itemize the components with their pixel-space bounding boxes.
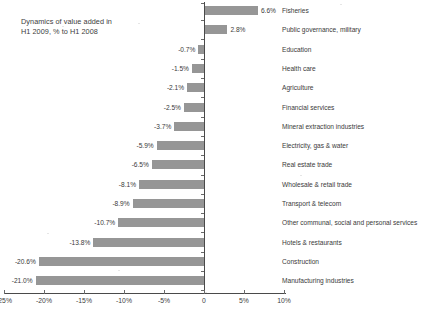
bar [39,257,204,266]
plot-area: 6.6%Fisheries2.8%Public governance, mili… [0,0,422,320]
category-axis-tick [201,78,204,79]
scan-artifact [205,292,207,293]
category-label: Agriculture [282,83,314,92]
value-axis-tick-label: -15% [64,297,104,304]
bar-value-label: -5.9% [84,141,154,150]
category-axis-tick [201,39,204,40]
bar-value-label: 6.6% [261,6,276,15]
category-label: Fisheries [282,6,309,15]
scan-artifact [118,270,120,271]
bar-value-label: -21.0% [0,276,33,285]
value-axis-tick-label: 5% [224,297,264,304]
bar [93,238,204,247]
value-axis-tick-label: -10% [104,297,144,304]
value-axis-tick [4,290,5,294]
value-axis-tick-label: -5% [144,297,184,304]
bar-value-label: -2.5% [111,103,181,112]
category-axis-tick [201,3,204,4]
bar-value-label: -1.5% [119,64,189,73]
category-label: Electricity, gas & water [282,141,348,150]
category-label: Real estate trade [282,160,332,169]
bar [192,64,204,73]
value-axis-tick [124,290,125,294]
bar [139,180,204,189]
category-label: Transport & telecom [282,199,341,208]
scan-artifact [47,233,49,234]
category-label: Manufacturing industries [282,276,354,285]
bar-value-label: -10.7% [45,218,115,227]
chart-container: Dynamics of value added in H1 2009, % to… [0,0,422,320]
bar [205,25,227,34]
scan-artifact [340,4,342,5]
bar-value-label: -8.9% [60,199,130,208]
category-axis-tick [201,20,204,21]
category-axis-tick [201,213,204,214]
category-label: Construction [282,257,319,266]
category-axis-tick [201,271,204,272]
bar-value-label: -13.8% [20,238,90,247]
bar-value-label: -0.7% [125,45,195,54]
category-label: Education [282,45,311,54]
bar [187,83,204,92]
bar [36,276,204,285]
bar [198,45,204,54]
value-axis-tick [164,290,165,294]
bar [157,141,204,150]
bar [152,160,204,169]
value-axis-tick-label: -20% [24,297,64,304]
value-axis-tick [284,290,285,294]
category-axis-tick [201,194,204,195]
bar [133,199,204,208]
bar-value-label: -8.1% [66,180,136,189]
value-axis-tick [44,290,45,294]
category-label: Mineral extraction industries [282,122,364,131]
scan-artifact [138,23,140,24]
zero-axis-line [204,2,205,294]
category-label: Wholesale & retail trade [282,180,352,189]
bar-value-label: -2.1% [114,83,184,92]
category-axis-tick [201,232,204,233]
value-axis-tick-label: 10% [264,297,304,304]
bar [118,218,204,227]
value-axis-tick-label: 0 [184,297,224,304]
scan-artifact [62,26,64,27]
category-axis-tick [201,136,204,137]
category-axis-tick [201,117,204,118]
category-label: Other communal, social and personal serv… [282,218,417,227]
category-axis-tick [201,97,204,98]
bar-value-label: -3.7% [101,122,171,131]
category-label: Hotels & restaurants [282,238,342,247]
bar [184,103,204,112]
category-axis-tick [201,155,204,156]
bar-value-label: 2.8% [230,25,245,34]
category-label: Health care [282,64,316,73]
footer-text [4,313,124,320]
bar [174,122,204,131]
value-axis-tick [84,290,85,294]
value-axis-tick-label: -25% [0,297,24,304]
bar-value-label: -20.6% [0,257,36,266]
category-axis-tick [201,175,204,176]
category-axis-tick [201,252,204,253]
value-axis-tick [244,290,245,294]
bar [205,6,258,15]
bar-value-label: -6.5% [79,160,149,169]
category-label: Financial services [282,103,334,112]
category-label: Public governance, military [282,25,361,34]
scan-artifact [300,175,302,176]
category-axis-tick [201,59,204,60]
